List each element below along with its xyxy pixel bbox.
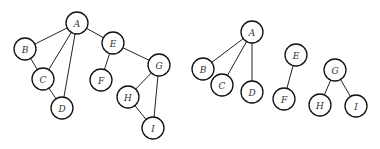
node-a: A <box>66 12 88 34</box>
node-f: F <box>90 69 112 91</box>
node-label: A <box>73 19 81 29</box>
node-c: C <box>32 68 54 90</box>
node-b: B <box>192 58 214 80</box>
node-g: G <box>324 59 346 81</box>
node-label: H <box>123 93 132 103</box>
node-g: G <box>148 54 170 76</box>
node-label: C <box>40 75 47 85</box>
graph-diagram: ABCDEFGHIABCDEFGHI <box>0 0 380 149</box>
node-label: G <box>331 66 338 76</box>
node-label: B <box>21 45 29 55</box>
node-label: C <box>219 81 226 91</box>
node-f: F <box>273 88 295 110</box>
node-label: F <box>280 95 288 105</box>
node-label: B <box>199 65 207 75</box>
node-a: A <box>241 21 263 43</box>
node-h: H <box>309 94 331 116</box>
node-h: H <box>117 86 139 108</box>
node-i: I <box>345 95 367 117</box>
node-i: I <box>142 117 164 139</box>
graph-right: ABCDEFGHI <box>192 21 367 117</box>
node-c: C <box>211 74 233 96</box>
node-label: E <box>109 39 117 49</box>
node-label: I <box>353 102 358 112</box>
node-e: E <box>285 44 307 66</box>
node-label: D <box>247 88 255 98</box>
node-label: G <box>155 61 162 71</box>
node-d: D <box>51 97 73 119</box>
node-d: D <box>241 81 263 103</box>
node-label: H <box>315 101 324 111</box>
graph-left: ABCDEFGHI <box>14 12 170 139</box>
node-label: D <box>57 104 65 114</box>
node-label: F <box>97 76 105 86</box>
node-b: B <box>14 38 36 60</box>
node-label: E <box>292 51 300 61</box>
node-e: E <box>102 32 124 54</box>
node-label: I <box>150 124 155 134</box>
node-label: A <box>248 28 256 38</box>
